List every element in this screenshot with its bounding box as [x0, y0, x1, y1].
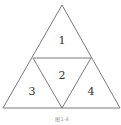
inner-right-line [62, 58, 91, 108]
outer-triangle [3, 5, 120, 108]
region-label-3: 3 [29, 85, 36, 98]
region-label-4: 4 [88, 85, 95, 98]
region-label-1: 1 [59, 34, 66, 47]
figure-caption: 图1-4 [55, 116, 68, 123]
inner-left-line [33, 58, 62, 108]
region-label-2: 2 [59, 69, 66, 82]
triangle-lines [3, 5, 120, 108]
triangle-diagram: 1 2 3 4 图1-4 [0, 0, 121, 125]
